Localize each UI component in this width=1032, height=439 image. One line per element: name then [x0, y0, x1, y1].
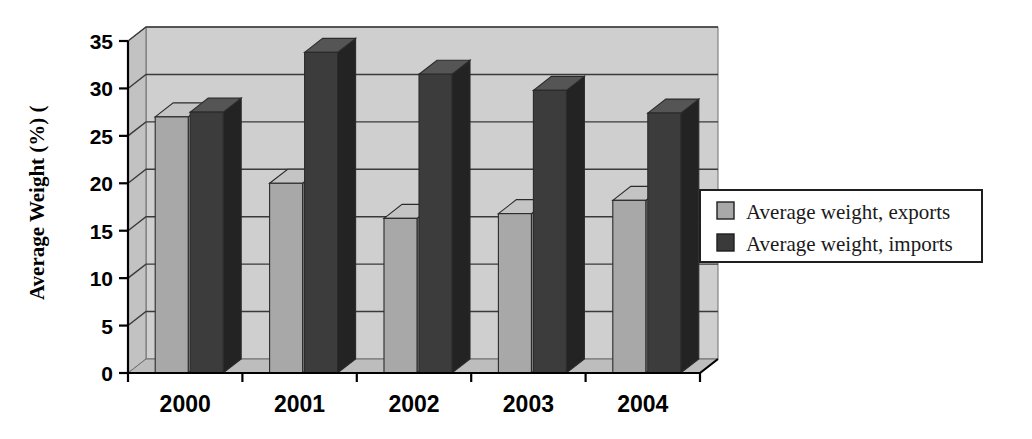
y-axis-tick-label: 30 — [90, 77, 113, 100]
bar-imports-2004 — [648, 99, 699, 373]
x-axis-category-label: 2001 — [274, 391, 325, 417]
legend-label-imports: Average weight, imports — [746, 232, 953, 256]
y-axis-tick-label: 15 — [90, 220, 114, 243]
plot-area — [128, 27, 718, 373]
y-axis-tick-label: 20 — [90, 172, 113, 195]
chart-legend: Average weight, exportsAverage weight, i… — [700, 190, 982, 262]
x-axis-category-label: 2003 — [503, 391, 554, 417]
bar-imports-2001 — [305, 38, 356, 373]
y-axis-tick-label: 35 — [90, 30, 114, 53]
y-axis-tick-label: 5 — [101, 315, 113, 338]
plot-left-wall — [128, 27, 146, 373]
legend-swatch-exports — [717, 202, 734, 219]
y-axis-title-text: Average Weight (%) ( — [25, 105, 49, 300]
x-axis-category-label: 2004 — [617, 391, 668, 417]
legend-swatch-imports — [717, 234, 734, 251]
y-axis-tick-label: 25 — [90, 125, 114, 148]
x-axis-category-label: 2002 — [388, 391, 439, 417]
x-axis-category-label: 2000 — [160, 391, 211, 417]
y-axis-tick-label: 0 — [101, 362, 113, 385]
bar-imports-2000 — [190, 98, 241, 373]
bar-imports-2002 — [419, 60, 470, 373]
chart-figure: Average Weight (%) ( 0510152025303520002… — [0, 0, 1032, 439]
legend-label-exports: Average weight, exports — [746, 200, 950, 224]
bar-imports-2003 — [533, 76, 584, 373]
y-axis-tick-label: 10 — [90, 267, 113, 290]
y-axis-title: Average Weight (%) ( — [25, 105, 49, 300]
